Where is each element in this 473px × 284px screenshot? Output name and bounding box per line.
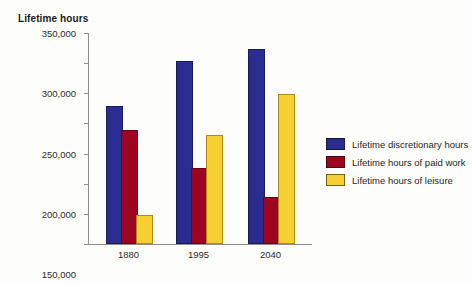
plot-area: 050,000100,000150,000200,000250,000300,0… <box>88 33 312 245</box>
y-tick-mark: 100,000 <box>84 184 88 185</box>
legend-label: Lifetime discretionary hours <box>352 139 468 150</box>
legend-swatch-icon <box>326 156 345 168</box>
bar <box>136 215 153 244</box>
x-tick-label: 1880 <box>106 249 151 260</box>
legend-swatch-icon <box>326 138 345 150</box>
legend-item: Lifetime discretionary hours <box>326 136 468 152</box>
y-tick-mark: 50,000 <box>84 214 88 215</box>
y-tick-label: 350,000 <box>42 28 76 39</box>
y-tick-label: 300,000 <box>42 88 76 99</box>
chart-legend: Lifetime discretionary hoursLifetime hou… <box>326 136 468 190</box>
y-tick-mark: 350,000 <box>84 33 88 34</box>
legend-swatch-icon <box>326 174 345 186</box>
y-tick-mark: 200,000 <box>84 123 88 124</box>
y-tick-label: 200,000 <box>42 208 76 219</box>
legend-label: Lifetime hours of leisure <box>352 175 453 186</box>
bar <box>278 94 295 244</box>
y-tick-mark: 250,000 <box>84 93 88 94</box>
legend-item: Lifetime hours of paid work <box>326 154 468 170</box>
chart-page: Lifetime hours 050,000100,000150,000200,… <box>0 0 473 284</box>
x-tick-label: 2040 <box>248 249 293 260</box>
y-tick-mark: 0 <box>84 244 88 245</box>
y-tick-label: 150,000 <box>42 269 76 280</box>
x-tick-label: 1995 <box>176 249 221 260</box>
legend-label: Lifetime hours of paid work <box>352 157 466 168</box>
y-axis-line <box>88 33 89 245</box>
chart-title: Lifetime hours <box>18 13 88 24</box>
x-axis-line <box>88 244 312 245</box>
bar <box>206 135 223 244</box>
y-tick-mark: 150,000 <box>84 154 88 155</box>
y-tick-mark: 300,000 <box>84 63 88 64</box>
y-tick-label: 250,000 <box>42 148 76 159</box>
legend-item: Lifetime hours of leisure <box>326 172 468 188</box>
